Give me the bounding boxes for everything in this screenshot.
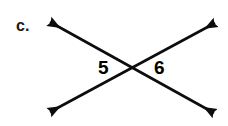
intersecting-lines-diagram xyxy=(0,0,228,126)
geometry-figure: c. 5 6 xyxy=(0,0,228,126)
angle-label-6: 6 xyxy=(154,58,165,77)
angle-label-5: 5 xyxy=(98,58,109,77)
